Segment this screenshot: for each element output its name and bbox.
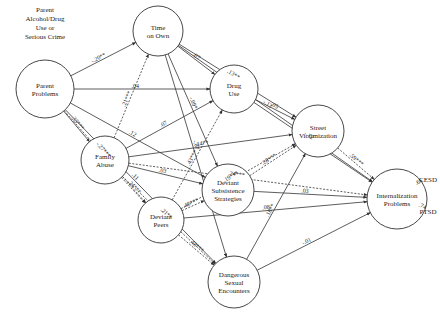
header-line: Alcohol/Drug [26, 15, 65, 23]
edge-subsist-to-internal [254, 191, 367, 197]
arrow-line [254, 191, 367, 197]
node-label: Time [151, 24, 166, 32]
node-label: Peers [153, 221, 168, 229]
edge-coefficient: .59*** [348, 152, 364, 167]
node-label: Problems [384, 200, 411, 208]
edge-street-to-internal [338, 148, 375, 179]
edge-coefficient: .07 [192, 51, 202, 60]
edge-family-to-street [129, 135, 292, 157]
header-line: Parent [36, 6, 54, 14]
node-family: FamilyAbuse [81, 136, 129, 184]
node-label: Encounters [218, 287, 250, 295]
arrow-line [71, 42, 136, 75]
node-label: Parent [36, 82, 54, 90]
arrow-line [250, 145, 297, 175]
node-label: Street [310, 124, 326, 132]
node-sexual: DangerousSexualEncounters [208, 256, 260, 308]
edge-coefficient: .03 [301, 187, 309, 193]
arrow-line [338, 148, 375, 179]
nodes: ParentProblemsTimeon OwnDrugUseStreetVic… [16, 6, 437, 308]
header-line: Serious Crime [25, 33, 65, 41]
edge-coefficient: .04 [131, 83, 139, 89]
node-peers: DeviantPeers [138, 197, 184, 243]
header-line: Use or [36, 24, 55, 32]
node-label: Internalization [377, 192, 418, 200]
arrow-line [114, 54, 148, 138]
edge-coefficient: .28*** [260, 152, 277, 166]
edge-time-to-drug [178, 46, 215, 74]
edge-coefficient: .05 [270, 101, 279, 110]
node-label: Problems [32, 90, 59, 98]
node-street: StreetVictimization [292, 105, 344, 157]
edge-family-to-time [114, 54, 148, 138]
edge-sexual-to-internal [257, 213, 370, 271]
node-label: Drug [227, 82, 242, 90]
node-label: on Own [147, 32, 170, 40]
node-label: Strategies [214, 195, 242, 203]
node-time: Timeon Own [133, 6, 183, 56]
arrow-line [257, 213, 370, 271]
header-caption: Parent Alcohol/Drug Use or Serious Crime [25, 6, 65, 41]
edge-coefficient: .48*** [189, 238, 205, 253]
node-label: Use [229, 90, 240, 98]
path-diagram: Parent Alcohol/Drug Use or Serious Crime… [0, 0, 440, 317]
arrow-line [247, 154, 306, 260]
arrow-line [129, 135, 292, 157]
edge-coefficient: .12 [128, 129, 137, 138]
node-label: Sexual [224, 279, 243, 287]
edge-time-to-internal [179, 45, 373, 181]
edge-coefficient: .24*** [127, 179, 143, 195]
edge-parent-to-time [71, 42, 136, 75]
arrow-line [179, 235, 215, 265]
edge-sexual-to-street [247, 154, 306, 260]
edge-coefficient: -.01 [301, 236, 312, 246]
edge-coefficient: .48*** [182, 197, 200, 209]
node-label: Dangerous [219, 271, 250, 279]
edge-coefficient: .07 [159, 119, 168, 128]
arrow-line [178, 46, 215, 74]
edge-subsist-to-street [250, 145, 297, 175]
arrow-line [179, 45, 373, 181]
node-parent: ParentProblems [16, 60, 74, 118]
node-label: Subsistence [211, 187, 244, 195]
node-label: Abuse [96, 161, 114, 169]
indicator-ptsd: PTSD [419, 208, 436, 216]
edge-peers-to-sexual [179, 235, 215, 265]
